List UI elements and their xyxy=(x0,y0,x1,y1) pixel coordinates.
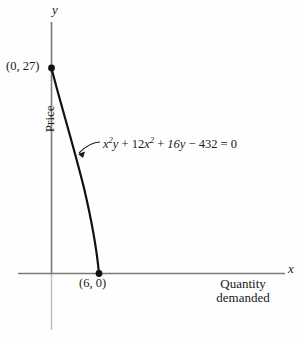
x-axis-title-line-1: Quantity xyxy=(206,277,280,291)
axis-label-x: x xyxy=(288,262,294,276)
equation-term-3: 16y xyxy=(167,137,185,151)
equation-term-4: 432 xyxy=(199,137,218,151)
curve-equation-label: x2y + 12x2 + 16y − 432 = 0 xyxy=(103,138,237,151)
equation-equals-sign: = xyxy=(217,137,230,151)
equation-operator-1: + xyxy=(118,137,131,151)
demand-curve-path xyxy=(52,68,100,274)
equation-right-hand-side: 0 xyxy=(231,137,237,151)
point-label-x-intercept: (6, 0) xyxy=(79,277,106,290)
demand-curve-figure: y x (0, 27) (6, 0) Price Quantity demand… xyxy=(0,0,303,341)
axis-label-y: y xyxy=(52,3,58,17)
x-axis-title-quantity-demanded: Quantity demanded xyxy=(206,277,280,304)
equation-operator-3: − xyxy=(185,137,198,151)
equation-term-2-coefficient: 12 xyxy=(132,137,145,151)
equation-operator-2: + xyxy=(154,137,167,151)
equation-leader-line xyxy=(79,142,100,153)
point-label-y-intercept: (0, 27) xyxy=(6,60,39,73)
x-axis-title-line-2: demanded xyxy=(206,291,280,305)
point-marker-y-intercept xyxy=(48,65,55,72)
y-axis-title-price: Price xyxy=(43,89,57,149)
